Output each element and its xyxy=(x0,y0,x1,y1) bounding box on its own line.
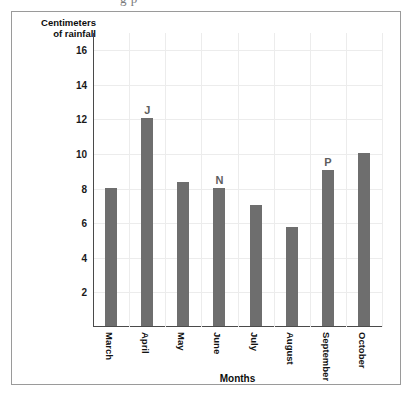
y-tick-label: 4 xyxy=(81,252,87,263)
x-tick-label: August xyxy=(285,332,296,365)
bar-annotation: J xyxy=(144,104,150,116)
y-tick-label: 10 xyxy=(76,149,87,160)
clipped-caption: g p xyxy=(120,0,138,7)
gridline-vertical xyxy=(274,33,275,327)
y-tick-label: 12 xyxy=(76,114,87,125)
bar[interactable] xyxy=(177,182,189,326)
bar[interactable] xyxy=(286,227,298,326)
x-tick-label: July xyxy=(249,332,260,351)
gridline-vertical xyxy=(310,33,311,327)
bar[interactable] xyxy=(213,188,225,326)
bar-annotation: N xyxy=(215,174,223,186)
gridline-vertical xyxy=(238,33,239,327)
y-axis-line xyxy=(93,33,94,327)
plot-area: 246810121416MarchJAprilMayNJuneJulyAugus… xyxy=(93,33,382,327)
bar-annotation: P xyxy=(324,156,331,168)
bar[interactable] xyxy=(250,205,262,326)
y-axis-title: Centimeters of rainfall xyxy=(26,17,96,39)
gridline-vertical xyxy=(201,33,202,327)
y-tick-label: 16 xyxy=(76,45,87,56)
y-tick-label: 2 xyxy=(81,287,87,298)
bar[interactable] xyxy=(322,170,334,326)
x-tick-label: April xyxy=(140,332,151,354)
bar[interactable] xyxy=(358,153,370,326)
x-tick-label: March xyxy=(104,332,115,360)
bar[interactable] xyxy=(141,118,153,326)
bar[interactable] xyxy=(105,188,117,326)
x-tick-label: May xyxy=(176,332,187,350)
x-axis-title: Months xyxy=(93,373,382,384)
gridline-vertical xyxy=(346,33,347,327)
y-tick-label: 6 xyxy=(81,218,87,229)
x-tick-label: June xyxy=(212,332,223,354)
x-tick-label: October xyxy=(357,332,368,368)
gridline-vertical xyxy=(129,33,130,327)
y-axis-title-line-1: Centimeters xyxy=(26,17,96,28)
y-axis-title-line-2: of rainfall xyxy=(26,28,96,39)
y-tick-label: 14 xyxy=(76,79,87,90)
plot-inner: 246810121416MarchJAprilMayNJuneJulyAugus… xyxy=(93,33,382,327)
y-tick-label: 8 xyxy=(81,183,87,194)
gridline-vertical xyxy=(165,33,166,327)
gridline-vertical xyxy=(382,33,383,327)
